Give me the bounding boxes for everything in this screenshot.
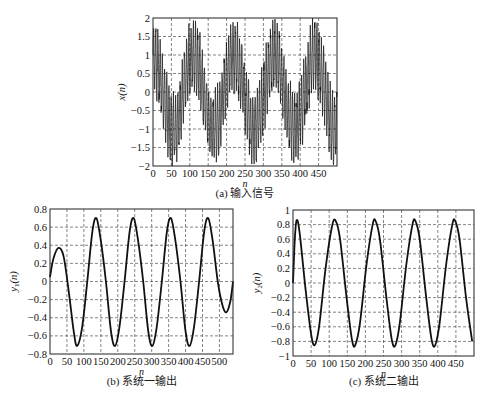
x-tick-label: 50 [306,358,317,369]
y-tick-label: 1 [285,205,290,216]
x-tick-label: 100 [321,358,337,369]
y-tick-label: −0.2 [28,294,47,305]
x-tick-label: 200 [358,358,374,369]
y-tick-label: 1 [145,50,150,61]
x-tick-label: 450 [311,168,327,179]
x-tick-label: 50 [166,168,177,179]
y-tick-label: −0.4 [271,307,291,318]
y-tick-label: 0.8 [34,204,47,215]
y-tick-label: −1 [139,124,150,135]
y-tick-label: −1 [279,351,290,362]
x-tick-label: 150 [339,358,355,369]
x-tick-label: 400 [430,358,446,369]
x-tick-label: 200 [219,168,235,179]
x-tick-label: 400 [178,356,194,367]
y-tick-label: −0.2 [271,292,290,303]
signal-line [50,218,233,346]
y-axis-label: y1(n) [8,271,21,293]
x-tick-label: 150 [93,356,109,367]
x-tick-label: 500 [212,356,228,367]
x-tick-label: 300 [144,356,160,367]
y-tick-label: 0 [285,278,290,289]
figure-canvas: 050100150200250300350400450−2−1.5−1−0.50… [0,0,492,412]
y-axis-label: x(n) [116,83,128,101]
y-tick-label: 0.4 [34,240,48,251]
y-tick-label: 0 [145,87,150,98]
y-tick-label: 0.6 [34,222,47,233]
caption-b: (b) 系统一输出 [92,372,192,388]
y-tick-label: 0.8 [277,219,290,230]
y-tick-label: −0.6 [271,321,290,332]
x-tick-label: 450 [448,358,464,369]
y-tick-label: −0.6 [28,330,47,341]
y-tick-label: 0.4 [277,248,291,259]
y-tick-label: 0 [42,276,47,287]
x-tick-label: 200 [110,356,126,367]
x-tick-label: 350 [161,356,177,367]
y-tick-label: −2 [139,161,150,172]
y-tick-label: 1.5 [137,31,150,42]
x-tick-label: 100 [76,356,92,367]
x-tick-label: 0 [290,358,295,369]
x-tick-label: 0 [47,356,52,367]
y-tick-label: −0.4 [28,312,48,323]
x-tick-label: 300 [394,358,410,369]
y-tick-label: 0.2 [34,258,47,269]
y-tick-label: 0.5 [137,68,150,79]
y-axis-label: y2(n) [251,272,264,294]
y-tick-label: −1.5 [131,142,150,153]
caption-a: (a) 输入信号 [195,184,295,200]
x-tick-label: 0 [150,168,155,179]
x-tick-label: 350 [412,358,428,369]
x-tick-label: 450 [195,356,211,367]
plot-c: 050100150200250300350400450−1−0.8−0.6−0.… [251,205,474,380]
x-tick-label: 100 [182,168,198,179]
x-tick-label: 400 [292,168,308,179]
plot-b: 050100150200250300350400450500−0.8−0.6−0… [8,204,233,378]
y-tick-label: −0.8 [271,336,290,347]
caption-c: (c) 系统二输出 [334,372,434,388]
x-tick-label: 300 [256,168,272,179]
y-tick-label: 2 [145,13,150,24]
x-tick-label: 50 [62,356,73,367]
y-tick-label: −0.5 [131,105,150,116]
x-tick-label: 150 [200,168,216,179]
y-tick-label: −0.8 [28,349,47,360]
y-tick-label: 0.6 [277,234,290,245]
plot-a: 050100150200250300350400450−2−1.5−1−0.50… [116,13,337,190]
x-tick-label: 350 [274,168,290,179]
y-tick-label: 0.2 [277,263,290,274]
